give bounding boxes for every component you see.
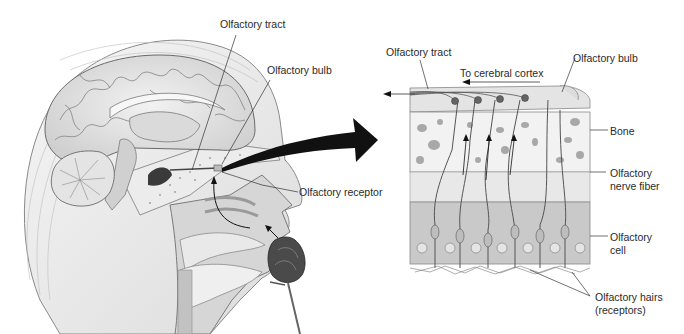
diagram-artwork bbox=[0, 0, 684, 334]
label-olfactory-hairs-line1: Olfactory hairs bbox=[595, 291, 663, 303]
rose-illustration bbox=[268, 237, 305, 334]
label-olfactory-cell-line1: Olfactory bbox=[610, 231, 652, 243]
label-olfactory-tract-left: Olfactory tract bbox=[220, 18, 285, 30]
label-olfactory-hairs-line2: (receptors) bbox=[595, 304, 646, 316]
olfactory-diagram: Olfactory tract Olfactory bulb Olfactory… bbox=[0, 0, 684, 334]
epithelium-illustration bbox=[383, 79, 590, 274]
label-olfactory-cell-line2: cell bbox=[610, 244, 626, 256]
label-nerve-fiber-line2: nerve fiber bbox=[610, 180, 660, 192]
head-illustration bbox=[24, 40, 302, 334]
label-nerve-fiber-line1: Olfactory bbox=[610, 167, 652, 179]
label-olfactory-bulb-right: Olfactory bulb bbox=[573, 52, 638, 64]
label-olfactory-tract-right: Olfactory tract bbox=[386, 46, 451, 58]
label-olfactory-receptor: Olfactory receptor bbox=[299, 186, 382, 198]
label-bone: Bone bbox=[610, 125, 635, 137]
label-to-cerebral-cortex: To cerebral cortex bbox=[460, 67, 543, 79]
label-olfactory-bulb-left: Olfactory bulb bbox=[267, 64, 332, 76]
